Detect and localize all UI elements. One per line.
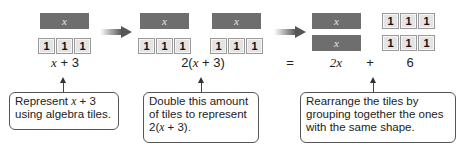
expression-x-plus-3: x + 3: [38, 55, 92, 71]
right-arrow-icon: [274, 26, 306, 38]
expression-2x: 2x: [316, 55, 356, 71]
expr-rest: + 3: [57, 55, 79, 70]
x-tile: x: [312, 35, 361, 51]
callout-double: Double this amount of tiles to represent…: [143, 92, 259, 143]
unit-tiles-row: 1 1 1: [138, 38, 191, 54]
unit-tile: 1: [74, 38, 91, 54]
unit-tile: 1: [156, 38, 173, 54]
expr-2-open: 2(: [181, 55, 193, 70]
term-2x: 2x: [330, 55, 342, 70]
x-tile: x: [140, 13, 189, 29]
expr-close: + 3): [198, 55, 224, 70]
up-arrow-icon: [60, 77, 66, 83]
unit-tile: 1: [400, 35, 417, 51]
unit-tile: 1: [174, 38, 191, 54]
unit-tile: 1: [418, 35, 435, 51]
unit-tiles-row: 1 1 1: [382, 35, 435, 51]
unit-tile: 1: [138, 38, 155, 54]
unit-tile: 1: [56, 38, 73, 54]
callout-represent: Represent x + 3 using algebra tiles.: [9, 92, 119, 130]
right-arrow-icon: [100, 26, 132, 38]
up-arrow-icon: [198, 77, 204, 83]
callout-text: Double this amount of tiles to represent…: [149, 95, 248, 133]
unit-tiles-row: 1 1 1: [382, 13, 435, 29]
callout-rearrange: Rearrange the tiles by grouping together…: [300, 92, 456, 143]
expression-6: 6: [398, 55, 422, 70]
x-tile: x: [212, 13, 261, 29]
unit-tile: 1: [228, 38, 245, 54]
equals-sign: =: [275, 55, 305, 70]
unit-tile: 1: [400, 13, 417, 29]
callout-text: Represent x + 3 using algebra tiles.: [15, 95, 111, 120]
up-arrow-icon: [370, 77, 376, 83]
unit-tile: 1: [418, 13, 435, 29]
plus-sign: +: [360, 55, 380, 70]
x-tile: x: [40, 13, 89, 29]
x-tile: x: [312, 13, 361, 29]
unit-tile: 1: [38, 38, 55, 54]
unit-tile: 1: [210, 38, 227, 54]
expression-2-x-plus-3: 2(x + 3): [168, 55, 238, 71]
unit-tile: 1: [246, 38, 263, 54]
unit-tile: 1: [382, 13, 399, 29]
unit-tiles-row: 1 1 1: [38, 38, 91, 54]
unit-tile: 1: [382, 35, 399, 51]
unit-tiles-row: 1 1 1: [210, 38, 263, 54]
